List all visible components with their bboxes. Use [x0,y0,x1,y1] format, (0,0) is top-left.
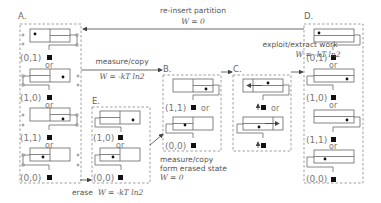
state-label: (0,1) [20,53,41,63]
szilard-engine-diagram: A. (0,1) or (1,0) or (1,1) or (0,0) [0,0,381,203]
panel-d: D. (0,1) or (1,0) or (1,1) or (0,0) [304,11,363,184]
state-label: (1,0) [306,93,327,103]
measure-work: W = -kT ln2 [99,72,144,81]
state-label: (0,0) [20,173,41,183]
or-label: or [271,104,280,113]
measure-erased-caption1: measure/copy [160,155,214,164]
measure-erased-caption2: form erased state [160,164,227,173]
or-label: or [201,104,210,113]
erase-caption: erase [72,188,93,197]
panel-b-label: B. [163,64,172,74]
exploit-work: W = -kT ln2 [295,50,340,59]
state-label: (1,1) [165,103,186,113]
panel-c-label: C. [233,64,242,74]
state-label: (1,1) [20,133,41,143]
measure-erased-work: W = 0 [160,173,184,182]
panel-c: C. or [233,64,291,151]
reinsert-caption: re-insert partition [160,6,226,15]
measure-caption: measure/copy [95,57,149,66]
exploit-caption: exploit/extract work [262,40,338,49]
panel-a-label: A. [18,11,26,21]
erase-work: W = -kT ln2 [98,188,143,197]
reinsert-work: W = 0 [181,17,205,26]
state-label: (1,0) [93,133,114,143]
panel-b: B. (1,1) or (0,0) [163,64,221,151]
or-label: or [329,101,338,110]
state-label: (1,1) [306,135,327,145]
state-label: (0,0) [93,173,114,183]
panel-e-label: E. [92,96,100,106]
panel-d-label: D. [304,11,313,21]
state-label: (1,0) [20,93,41,103]
state-label: (0,0) [306,174,327,184]
panel-e: E. (1,0) or (0,0) [92,96,150,183]
panel-a: A. (0,1) or (1,0) or (1,1) or (0,0) [18,11,81,183]
measure-erased-arrow [150,134,163,145]
state-label: (0,0) [165,141,186,151]
